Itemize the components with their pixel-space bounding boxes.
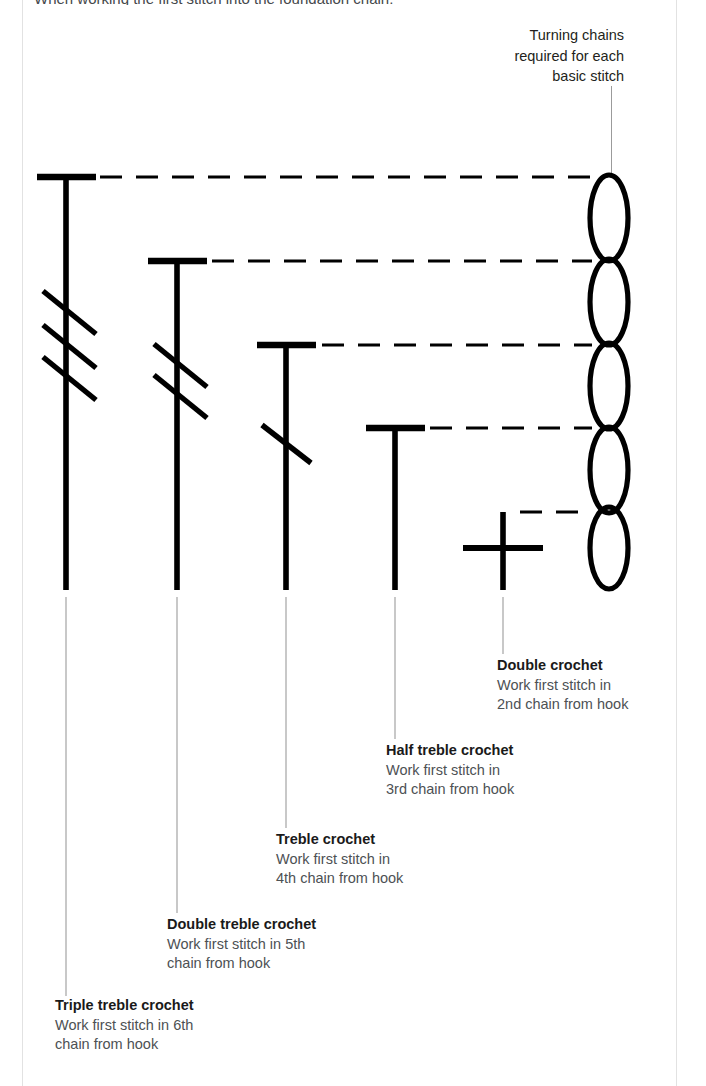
label-triple-treble-crochet: Triple treble crochet Work first stitch … xyxy=(55,996,305,1055)
chain-loop-5 xyxy=(590,507,628,589)
label-double-crochet-title: Double crochet xyxy=(497,656,697,676)
symbol-double-crochet xyxy=(463,512,543,590)
symbol-triple-treble-crochet xyxy=(37,177,96,590)
triple-treble-slash-1 xyxy=(43,291,96,334)
label-treble-crochet: Treble crochet Work first stitch in 4th … xyxy=(276,830,526,889)
label-half-treble-title: Half treble crochet xyxy=(386,741,636,761)
label-triple-treble-line-1: Work first stitch in 6th xyxy=(55,1016,305,1036)
label-double-treble-crochet: Double treble crochet Work first stitch … xyxy=(167,915,417,974)
chain-loop-2 xyxy=(590,259,628,345)
chain-loop-stack xyxy=(590,175,628,589)
chain-loop-1 xyxy=(590,175,628,261)
label-half-treble-line-2: 3rd chain from hook xyxy=(386,780,636,800)
label-triple-treble-line-2: chain from hook xyxy=(55,1035,305,1055)
label-treble-line-2: 4th chain from hook xyxy=(276,869,526,889)
label-double-crochet: Double crochet Work first stitch in 2nd … xyxy=(497,656,697,715)
label-triple-treble-title: Triple treble crochet xyxy=(55,996,305,1016)
label-double-crochet-line-2: 2nd chain from hook xyxy=(497,695,697,715)
label-half-treble-crochet: Half treble crochet Work first stitch in… xyxy=(386,741,636,800)
chain-loop-3 xyxy=(590,343,628,429)
symbol-half-treble-crochet xyxy=(366,428,425,590)
chain-loop-4 xyxy=(590,427,628,513)
dashed-height-guides xyxy=(100,177,592,512)
label-double-treble-line-1: Work first stitch in 5th xyxy=(167,935,417,955)
label-double-treble-line-2: chain from hook xyxy=(167,954,417,974)
symbol-double-treble-crochet xyxy=(148,261,207,590)
label-double-crochet-line-1: Work first stitch in xyxy=(497,676,697,696)
label-double-treble-title: Double treble crochet xyxy=(167,915,417,935)
label-half-treble-line-1: Work first stitch in xyxy=(386,761,636,781)
diagram-page: When working the first stitch into the f… xyxy=(0,0,706,1086)
label-treble-title: Treble crochet xyxy=(276,830,526,850)
symbol-treble-crochet xyxy=(257,345,316,590)
label-treble-line-1: Work first stitch in xyxy=(276,850,526,870)
